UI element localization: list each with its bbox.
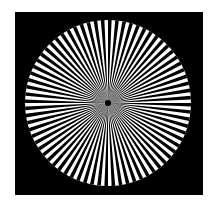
black-spokes [25,20,191,186]
siemens-star [0,0,211,202]
